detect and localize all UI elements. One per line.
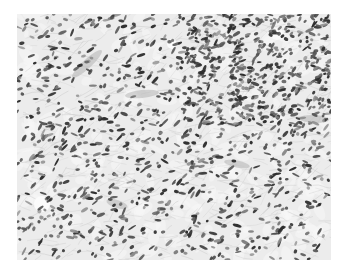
micrograph-canvas	[17, 14, 331, 260]
histology-micrograph	[17, 14, 331, 260]
